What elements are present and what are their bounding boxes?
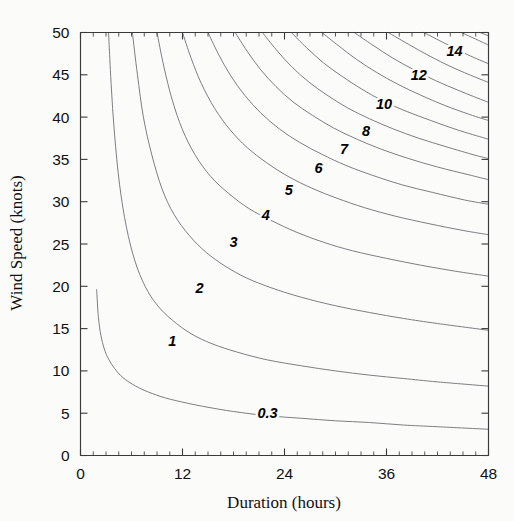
y-tick-label-20: 20 <box>52 278 70 295</box>
x-tick-label-36: 36 <box>378 465 395 482</box>
contour-label-5: 5 <box>285 182 294 198</box>
y-tick-label-35: 35 <box>52 151 69 168</box>
contour-plot-svg: 01224364805101520253035404550 0.30.31122… <box>0 0 514 521</box>
contour-label-4: 4 <box>261 207 270 223</box>
plot-background <box>0 0 514 521</box>
figure-page: 01224364805101520253035404550 0.30.31122… <box>0 0 514 521</box>
x-tick-label-24: 24 <box>276 465 294 482</box>
y-tick-label-5: 5 <box>61 405 70 422</box>
contour-label-1: 1 <box>168 333 176 349</box>
x-tick-label-48: 48 <box>480 465 497 482</box>
contour-plot-container: 01224364805101520253035404550 0.30.31122… <box>0 0 514 521</box>
contour-label-6: 6 <box>314 160 323 176</box>
y-axis-title: Wind Speed (knots) <box>7 175 26 310</box>
contour-label-2: 2 <box>194 280 203 296</box>
y-tick-label-40: 40 <box>52 109 70 126</box>
contour-label-7: 7 <box>340 141 349 157</box>
x-tick-label-12: 12 <box>174 465 191 482</box>
contour-label-14: 14 <box>446 43 462 59</box>
y-tick-label-10: 10 <box>52 362 70 379</box>
contour-label-10: 10 <box>376 96 392 112</box>
y-tick-label-30: 30 <box>52 193 70 210</box>
y-tick-label-45: 45 <box>52 66 69 83</box>
y-tick-label-15: 15 <box>52 320 69 337</box>
contour-label-8: 8 <box>362 123 371 139</box>
y-tick-label-50: 50 <box>52 24 70 41</box>
y-tick-label-0: 0 <box>61 447 70 464</box>
x-tick-label-0: 0 <box>76 465 85 482</box>
x-axis-title: Duration (hours) <box>227 493 341 512</box>
contour-label-12: 12 <box>411 67 427 83</box>
y-tick-label-25: 25 <box>52 236 69 253</box>
contour-label-0.3: 0.3 <box>257 405 277 421</box>
contour-label-3: 3 <box>229 234 237 250</box>
